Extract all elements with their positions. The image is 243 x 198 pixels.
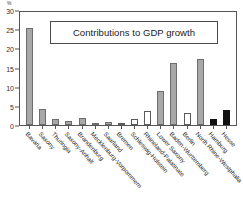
bar <box>157 91 164 125</box>
bar <box>223 110 230 125</box>
bar <box>52 119 59 125</box>
gdp-growth-bar-chart: % 051015202530 BavariaSaxonyThuringiaSax… <box>0 0 243 198</box>
bar-slot <box>36 12 49 125</box>
bar <box>105 122 112 125</box>
x-label-slot: Bavaria <box>23 129 36 198</box>
x-label-slot: Saxony <box>36 129 49 198</box>
y-axis-unit-label: % <box>7 0 11 6</box>
y-axis-tick-label: 15 <box>6 65 14 72</box>
bar <box>210 119 217 125</box>
bar <box>170 63 177 125</box>
bar <box>131 119 138 125</box>
x-label-slot: Hesse <box>220 129 233 198</box>
y-axis-tick-label: 5 <box>10 103 14 110</box>
bar <box>144 111 151 125</box>
y-axis-tick-label: 20 <box>6 46 14 53</box>
bar <box>26 28 33 125</box>
x-label-slot: Baden-Wurttemberg <box>167 129 180 198</box>
x-label-slot: Berlin <box>181 129 194 198</box>
y-axis-tick-label: 25 <box>6 27 14 34</box>
x-label-slot: Bremen <box>115 129 128 198</box>
x-label-slot: Rhineland-Palatinate <box>141 129 154 198</box>
bar <box>197 59 204 125</box>
x-label-slot: Mecklenburg-Vorpommern <box>89 129 102 198</box>
chart-title-box: Contributions to GDP growth <box>50 21 218 44</box>
x-label-slot: Lower Saxony <box>154 129 167 198</box>
chart-title: Contributions to GDP growth <box>73 27 195 38</box>
x-label-slot: Hamburg <box>207 129 220 198</box>
y-axis: 051015202530 <box>0 11 19 126</box>
bar-slot <box>23 12 36 125</box>
x-label-slot: North Rhine-Westphalia <box>194 129 207 198</box>
x-label-slot: Brandenburg <box>76 129 89 198</box>
x-axis-labels: BavariaSaxonyThuringiaSaxony-AnhaltBrand… <box>20 129 236 198</box>
x-label-slot: Thuringia <box>49 129 62 198</box>
y-axis-tick-label: 0 <box>10 123 14 130</box>
bar <box>92 123 99 125</box>
y-axis-tick-label: 30 <box>6 8 14 15</box>
bar <box>184 113 191 125</box>
bar <box>39 109 46 125</box>
x-label-slot: Saxony-Anhalt <box>62 129 75 198</box>
x-axis-category-label: Hesse <box>221 131 238 148</box>
bar <box>79 118 86 125</box>
bar <box>65 121 72 125</box>
bar-slot <box>220 12 233 125</box>
x-label-slot: Schleswig-Holstein <box>128 129 141 198</box>
bar <box>118 123 125 125</box>
y-axis-tick-label: 10 <box>6 84 14 91</box>
x-label-slot: Saarland <box>102 129 115 198</box>
